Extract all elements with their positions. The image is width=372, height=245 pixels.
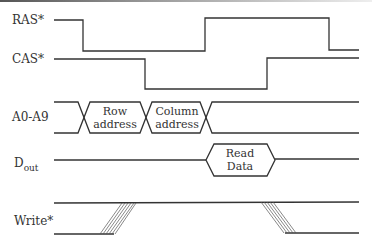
dout-waveform [54, 144, 359, 176]
cas-waveform [54, 58, 359, 89]
column-address-line1: Column [155, 105, 198, 118]
write-waveform [54, 202, 359, 234]
label-cas: CAS* [12, 52, 44, 66]
label-dout: Dout [14, 156, 39, 173]
label-dout-main: D [14, 156, 24, 170]
column-address-line2: address [155, 118, 199, 131]
row-address-line1: Row [103, 105, 128, 118]
ras-waveform [54, 18, 359, 51]
write-hatch-1 [100, 203, 136, 234]
timing-diagram: RAS* CAS* A0-A9 Dout Write* Row address … [0, 0, 372, 245]
label-write: Write* [14, 214, 53, 228]
read-data-line2: Data [227, 160, 254, 173]
row-address-line2: address [93, 118, 137, 131]
label-dout-sub: out [24, 163, 39, 173]
label-address: A0-A9 [11, 110, 49, 124]
label-ras: RAS* [12, 13, 44, 27]
write-hatch-2 [261, 202, 296, 233]
read-data-line1: Read [226, 147, 254, 160]
